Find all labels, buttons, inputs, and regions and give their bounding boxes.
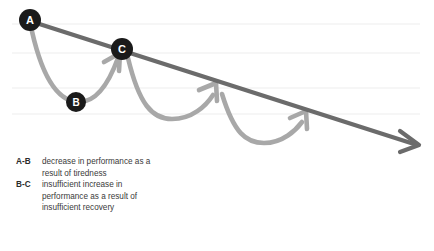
node-a: A <box>19 9 41 31</box>
legend-key-ab: A-B <box>16 156 42 168</box>
legend-text-bc: insufficient increase in performance as … <box>42 179 246 214</box>
trend-line-group <box>30 21 419 152</box>
node-b: B <box>66 92 86 112</box>
chart-svg: A B C <box>0 0 434 155</box>
cycle-arrowheads <box>104 53 307 129</box>
cycle-curve-series <box>30 22 302 143</box>
node-c: C <box>111 38 133 60</box>
legend-line: decrease in performance as a <box>42 156 246 168</box>
legend-line: result of tiredness <box>42 168 246 180</box>
legend-row-bc: B-C insufficient increase in performance… <box>16 179 246 214</box>
legend-line: insufficient increase in <box>42 179 246 191</box>
performance-decline-diagram: A B C A-B decrease in performance as a r… <box>0 0 434 251</box>
legend: A-B decrease in performance as a result … <box>16 156 246 214</box>
node-c-label: C <box>118 43 126 55</box>
legend-text-ab: decrease in performance as a result of t… <box>42 156 246 179</box>
legend-line: insufficient recovery <box>42 202 246 214</box>
node-b-label: B <box>72 97 79 108</box>
legend-row-ab: A-B decrease in performance as a result … <box>16 156 246 179</box>
legend-line: performance as a result of <box>42 191 246 203</box>
chart-area: A B C <box>0 0 434 155</box>
node-a-label: A <box>26 14 34 26</box>
trend-line <box>30 21 414 144</box>
legend-key-bc: B-C <box>16 179 42 191</box>
